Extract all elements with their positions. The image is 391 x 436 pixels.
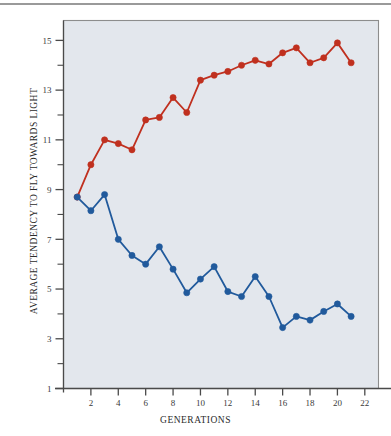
- data-point-marker: [280, 324, 286, 330]
- data-point-marker: [156, 244, 162, 250]
- data-point-marker: [74, 194, 80, 200]
- chart-figure: AVERAGE TENDENCY TO FLY TOWARDS LIGHT GE…: [0, 0, 391, 436]
- data-point-marker: [238, 62, 244, 68]
- data-point-marker: [88, 208, 94, 214]
- y-axis-tick-label: 1: [47, 384, 52, 394]
- x-axis-tick-label: 10: [196, 398, 206, 408]
- data-point-marker: [225, 288, 231, 294]
- y-axis-tick-label: 11: [43, 135, 52, 145]
- data-point-marker: [101, 191, 107, 197]
- data-point-marker: [321, 55, 327, 61]
- x-axis-tick-label: 22: [360, 398, 369, 408]
- line-chart-plot: 13579111315246810121416182022: [0, 0, 391, 436]
- data-point-marker: [334, 301, 340, 307]
- data-point-marker: [115, 236, 121, 242]
- data-point-marker: [252, 57, 258, 63]
- data-point-marker: [170, 266, 176, 272]
- y-axis-tick-label: 5: [47, 284, 52, 294]
- data-point-marker: [143, 261, 149, 267]
- x-axis-tick-label: 4: [116, 398, 121, 408]
- data-point-marker: [184, 290, 190, 296]
- data-point-marker: [88, 162, 94, 168]
- x-axis-tick-label: 6: [143, 398, 148, 408]
- data-point-marker: [293, 313, 299, 319]
- data-point-marker: [143, 117, 149, 123]
- data-point-marker: [266, 61, 272, 67]
- data-point-marker: [252, 274, 258, 280]
- data-point-marker: [129, 252, 135, 258]
- x-axis-tick-label: 14: [251, 398, 261, 408]
- x-axis-tick-label: 20: [333, 398, 343, 408]
- data-point-marker: [348, 60, 354, 66]
- y-axis-tick-label: 13: [43, 85, 53, 95]
- data-point-marker: [225, 68, 231, 74]
- data-point-marker: [307, 60, 313, 66]
- data-point-marker: [211, 264, 217, 270]
- data-point-marker: [280, 50, 286, 56]
- plot-area-background: [64, 21, 379, 389]
- data-point-marker: [170, 94, 176, 100]
- x-axis-tick-label: 18: [306, 398, 316, 408]
- x-axis-tick-label: 8: [171, 398, 176, 408]
- data-point-marker: [334, 40, 340, 46]
- data-point-marker: [321, 308, 327, 314]
- x-axis-tick-label: 2: [89, 398, 94, 408]
- y-axis-tick-label: 9: [47, 185, 52, 195]
- data-point-marker: [129, 147, 135, 153]
- data-point-marker: [266, 293, 272, 299]
- data-point-marker: [115, 140, 121, 146]
- data-point-marker: [184, 109, 190, 115]
- x-axis-tick-label: 16: [278, 398, 288, 408]
- data-point-marker: [197, 276, 203, 282]
- y-axis-tick-label: 3: [47, 334, 52, 344]
- data-point-marker: [101, 137, 107, 143]
- data-point-marker: [211, 72, 217, 78]
- data-point-marker: [307, 317, 313, 323]
- data-point-marker: [197, 77, 203, 83]
- y-axis-tick-label: 15: [43, 36, 53, 46]
- data-point-marker: [156, 114, 162, 120]
- data-point-marker: [293, 45, 299, 51]
- data-point-marker: [348, 313, 354, 319]
- y-axis-tick-label: 7: [47, 235, 52, 245]
- data-point-marker: [238, 293, 244, 299]
- x-axis-tick-label: 12: [223, 398, 232, 408]
